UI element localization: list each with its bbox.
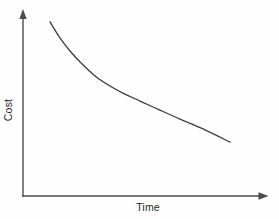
chart-canvas: Time Cost <box>0 0 279 219</box>
x-axis-arrowhead-icon <box>259 192 269 199</box>
cost-curve <box>50 22 230 142</box>
y-axis-arrowhead-icon <box>19 9 26 19</box>
y-axis-label: Cost <box>2 99 14 121</box>
x-axis-label: Time <box>136 201 160 213</box>
cost-time-chart: Time Cost <box>0 0 279 219</box>
